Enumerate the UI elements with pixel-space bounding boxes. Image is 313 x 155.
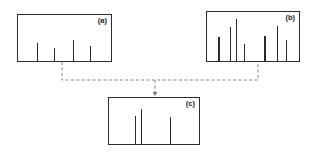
peak-b-2 <box>230 27 231 61</box>
peak-c-1 <box>135 116 136 144</box>
panel-c: (c) <box>108 97 200 145</box>
peak-b-1 <box>218 37 219 61</box>
peak-b-6 <box>277 26 278 61</box>
peak-b-4 <box>244 44 245 61</box>
figure-canvas: (a) (b) (c) <box>0 0 313 155</box>
peak-a-3 <box>73 40 74 61</box>
peak-b-5 <box>264 36 265 62</box>
panel-a-label: (a) <box>98 16 107 25</box>
peak-c-2 <box>141 109 142 144</box>
panel-a: (a) <box>17 14 112 62</box>
peak-a-4 <box>90 46 91 61</box>
peak-a-1 <box>37 43 38 61</box>
panel-b-label: (b) <box>285 13 295 22</box>
panel-b: (b) <box>206 11 300 62</box>
connector-arrowhead <box>153 92 158 96</box>
peak-b-3 <box>236 19 237 61</box>
connector-bus-line <box>62 62 258 80</box>
panel-c-label: (c) <box>186 99 195 108</box>
peak-b-7 <box>286 40 287 61</box>
peak-a-2 <box>54 48 55 61</box>
peak-c-3 <box>170 117 171 144</box>
